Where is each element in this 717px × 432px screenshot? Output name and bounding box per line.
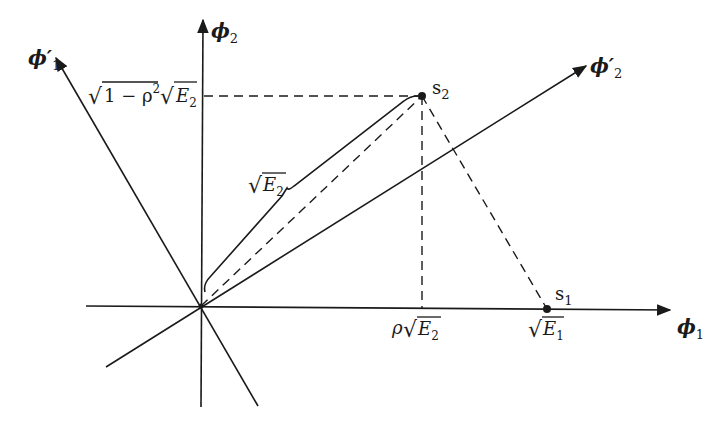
phi1-label: ϕ1: [677, 315, 704, 342]
s2-label: s2: [432, 77, 450, 102]
phi2-axis: [201, 20, 203, 407]
svg-text:√: √: [403, 317, 418, 342]
signal-space-diagram: ϕ2 ϕ1 ϕ′1 ϕ′2 s2 s1 √ 1 − ρ2 √ E2 ρ √ E2: [0, 0, 717, 432]
s1-point: [543, 305, 551, 313]
phi2-prime-axis: [106, 66, 586, 367]
s2-s1-difference: [422, 96, 547, 309]
origin-point: [199, 304, 204, 309]
s1-position-label: √ E1: [528, 317, 564, 343]
phi1-prime-axis: [56, 58, 258, 406]
s2-point: [418, 92, 426, 100]
x-projection-label: ρ √ E2: [391, 317, 441, 343]
svg-text:√: √: [248, 173, 263, 198]
svg-text:ρ: ρ: [391, 317, 403, 338]
phi1-axis: [86, 306, 670, 310]
phi1-prime-label: ϕ′1: [28, 46, 60, 73]
svg-text:E2: E2: [417, 318, 439, 343]
phi2-label: ϕ2: [211, 19, 238, 46]
brace-length-label: √ E2: [248, 173, 286, 199]
phi2-prime-label: ϕ′2: [590, 54, 622, 81]
svg-text:E1: E1: [542, 318, 564, 343]
y-projection-label: √ 1 − ρ2 √ E2: [88, 82, 197, 110]
svg-text:√: √: [528, 317, 543, 342]
s2-vector-dashed: [201, 96, 422, 306]
svg-text:√: √: [160, 84, 175, 109]
svg-text:√: √: [88, 84, 103, 109]
svg-text:1 − ρ2: 1 − ρ2: [104, 82, 160, 106]
svg-text:E2: E2: [262, 174, 284, 199]
length-brace: [205, 96, 418, 292]
svg-text:E2: E2: [175, 85, 197, 110]
s1-label: s1: [555, 283, 573, 308]
